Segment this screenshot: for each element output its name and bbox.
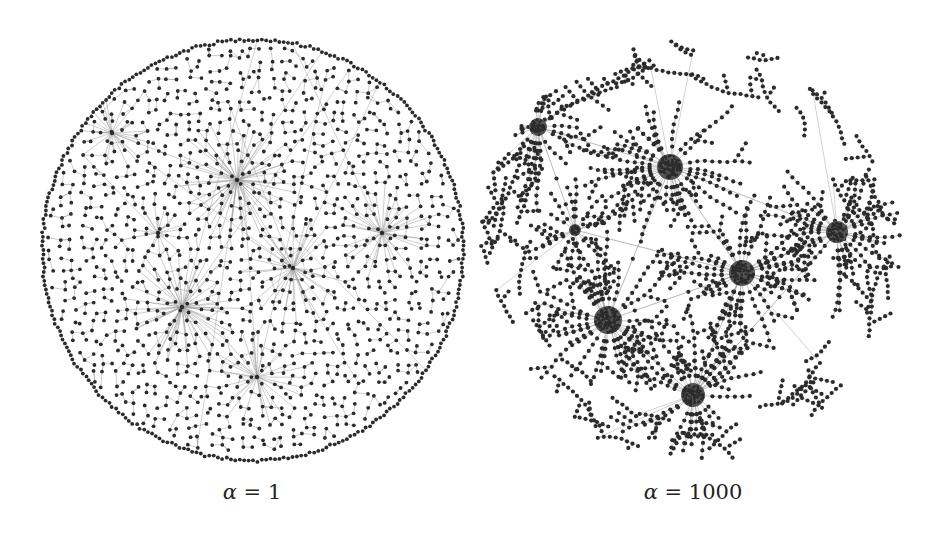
alpha-symbol: α — [644, 480, 658, 504]
network-figure — [0, 0, 929, 533]
network-graph-alpha-1 — [40, 37, 466, 463]
network-graph-alpha-1000 — [479, 39, 902, 460]
caption-alpha-1000: α = 1000 — [644, 480, 743, 504]
alpha-value: 1 — [268, 480, 281, 504]
equals-sign: = — [237, 480, 268, 504]
equals-sign: = — [658, 480, 689, 504]
alpha-value: 1000 — [689, 480, 742, 504]
caption-alpha-1: α = 1 — [223, 480, 282, 504]
nodes-layer — [40, 37, 466, 463]
alpha-symbol: α — [223, 480, 237, 504]
nodes-layer — [479, 39, 902, 460]
